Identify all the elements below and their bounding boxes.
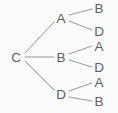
edge-root-to-a bbox=[25, 22, 54, 53]
tree-node-level1-d: D bbox=[56, 88, 66, 101]
tree-node-leaf-2: D bbox=[94, 25, 104, 38]
tree-node-leaf-4: D bbox=[94, 61, 104, 74]
edge-root-to-d bbox=[25, 61, 54, 90]
tree-node-root: C bbox=[11, 51, 21, 64]
tree-node-leaf-6: B bbox=[94, 95, 103, 108]
edge-d-to-leaf-b bbox=[69, 97, 92, 101]
tree-node-leaf-1: B bbox=[94, 2, 103, 15]
tree-node-leaf-5: A bbox=[94, 76, 103, 89]
tree-node-leaf-3: A bbox=[94, 40, 103, 53]
edge-d-to-leaf-a bbox=[69, 83, 92, 91]
edge-b-to-leaf-a bbox=[69, 46, 92, 54]
tree-node-level1-a: A bbox=[56, 12, 65, 25]
tree-node-level1-b: B bbox=[56, 51, 65, 64]
edge-a-to-leaf-b bbox=[69, 9, 92, 15]
tree-diagram: C A B D B D A D A B bbox=[0, 0, 118, 113]
edge-a-to-leaf-d bbox=[69, 21, 92, 30]
edge-b-to-leaf-d bbox=[69, 60, 92, 67]
